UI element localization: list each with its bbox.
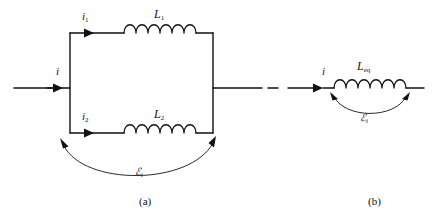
inductor-L1-coil — [124, 25, 196, 33]
label-L2-base: L — [154, 107, 161, 121]
emf-arrowhead-left-a — [60, 138, 69, 149]
label-L2-sub: 2 — [161, 114, 165, 122]
emf-arrowhead-right-b — [402, 92, 410, 101]
label-inductor-Leq: Leq — [357, 60, 370, 74]
emf-arrowhead-left-b — [330, 92, 338, 101]
label-emf-a: ℰi — [135, 162, 143, 179]
label-L1-base: L — [154, 7, 161, 21]
emf-arrowhead-right-a — [209, 136, 217, 148]
label-Leq-base: L — [357, 59, 364, 73]
label-current-i-b: i — [322, 66, 325, 77]
label-Leq-sub: eq — [364, 66, 371, 74]
label-inductor-L1: L1 — [154, 8, 164, 22]
label-i1-sub: 1 — [85, 16, 89, 24]
inductor-L2-coil — [124, 125, 196, 133]
label-emf-b: ℰi — [360, 108, 368, 125]
caption-b: (b) — [368, 196, 381, 207]
inductor-Leq-coil — [334, 80, 406, 88]
current-arrow-i-b — [313, 84, 323, 93]
label-current-i1: i1 — [82, 11, 89, 24]
current-arrow-i-a — [53, 84, 63, 93]
current-arrow-i2 — [84, 129, 94, 138]
label-inductor-L2: L2 — [154, 108, 164, 122]
emf-arc-b — [334, 97, 406, 114]
current-arrow-i1 — [84, 29, 94, 38]
label-emf-b-sub: i — [366, 117, 368, 125]
label-L1-sub: 1 — [161, 14, 165, 22]
caption-a: (a) — [139, 196, 151, 207]
label-emf-a-sub: i — [141, 171, 143, 179]
label-current-i-a: i — [56, 66, 59, 77]
label-i2-sub: 2 — [85, 116, 89, 124]
label-current-i2: i2 — [82, 111, 89, 124]
